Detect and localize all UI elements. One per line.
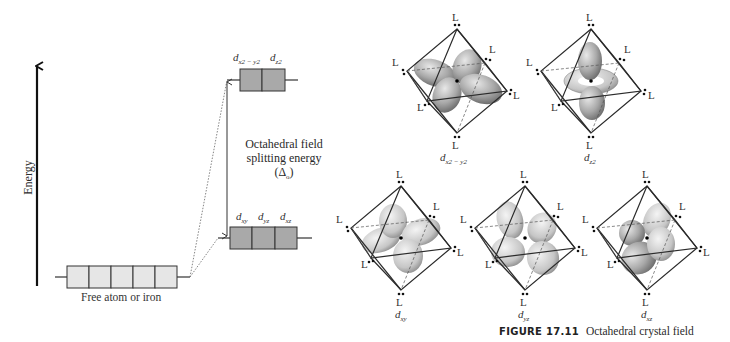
ligand-label: L <box>624 43 631 55</box>
ligand-label: L <box>557 200 564 212</box>
ligand-label: L <box>520 296 527 308</box>
ligand-label: L <box>648 89 655 101</box>
orbital-label-dxy: dxy <box>395 308 407 323</box>
orbital-panels-graphics <box>0 0 730 342</box>
ligand-label: L <box>457 246 464 258</box>
ligand-label: L <box>526 56 533 68</box>
ligand-label: L <box>433 200 440 212</box>
ligand-label: L <box>520 168 527 180</box>
orbital-label-dxz: dxz <box>641 308 652 323</box>
figure-caption-text: Octahedral crystal field <box>586 325 694 337</box>
ligand-label: L <box>586 11 593 23</box>
figure-number: FIGURE 17.11 <box>499 326 579 337</box>
ligand-label: L <box>336 213 343 225</box>
ligand-label: L <box>582 213 589 225</box>
ligand-label: L <box>489 43 496 55</box>
ligand-label: L <box>361 258 368 270</box>
ligand-label: L <box>551 101 558 113</box>
ligand-label: L <box>417 101 424 113</box>
figure-caption: FIGURE 17.11 Octahedral crystal field <box>499 325 694 337</box>
octahedron-dyz <box>470 181 581 296</box>
ligand-label: L <box>396 168 403 180</box>
ligand-label: L <box>642 296 649 308</box>
ligand-label: L <box>396 296 403 308</box>
ligand-label: L <box>586 139 593 151</box>
ligand-label: L <box>392 56 399 68</box>
orbital-label-dz2: dz2 <box>584 151 596 166</box>
ligand-label: L <box>607 258 614 270</box>
ligand-label: L <box>452 11 459 23</box>
octahedron-dxz <box>592 181 703 296</box>
ligand-label: L <box>452 139 459 151</box>
ligand-label: L <box>679 200 686 212</box>
ligand-label: L <box>581 246 588 258</box>
ligand-label: L <box>460 213 467 225</box>
orbital-label-dyz: dyz <box>518 308 529 323</box>
ligand-label: L <box>513 89 520 101</box>
ligand-label: L <box>485 258 492 270</box>
ligand-label: L <box>642 168 649 180</box>
orbital-label-dx2-y2: dx2 − y2 <box>440 151 467 166</box>
ligand-label: L <box>703 246 710 258</box>
octahedron-dxy <box>346 181 457 296</box>
octahedron-dx2-y2 <box>402 24 513 139</box>
octahedron-dz2 <box>536 24 647 139</box>
